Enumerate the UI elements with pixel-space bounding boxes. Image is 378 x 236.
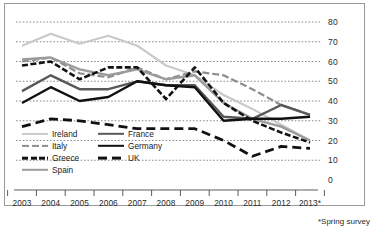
x-axis-tick-2009: 2009 — [179, 198, 211, 208]
legend-label: UK — [128, 154, 140, 163]
legend-label: Ireland — [52, 130, 77, 139]
legend-swatch-italy-icon — [22, 142, 48, 151]
y-axis-tick-40: 40 — [328, 96, 350, 106]
legend-label: Greece — [52, 154, 79, 163]
legend-label: Germany — [128, 142, 162, 151]
legend-swatch-ireland-icon — [22, 130, 48, 139]
y-axis-tick-80: 80 — [328, 17, 350, 27]
x-axis-tick-2010: 2010 — [208, 198, 240, 208]
y-axis-tick-20: 20 — [328, 136, 350, 146]
legend-column-right: FranceGermanyUK — [98, 128, 162, 164]
x-axis-tick-2004: 2004 — [35, 198, 67, 208]
legend-item-spain[interactable]: Spain — [22, 164, 79, 176]
legend-swatch-germany-icon — [98, 142, 124, 151]
legend-item-uk[interactable]: UK — [98, 152, 162, 164]
y-axis-tick-60: 60 — [328, 57, 350, 67]
chart-figure: 01020304050607080 2003200420052006200720… — [0, 0, 378, 236]
legend-item-italy[interactable]: Italy — [22, 140, 79, 152]
legend-label: Italy — [52, 142, 67, 151]
legend-swatch-france-icon — [98, 130, 124, 139]
x-axis-tick-2007: 2007 — [121, 198, 153, 208]
x-axis-tick-2008: 2008 — [150, 198, 182, 208]
legend-item-greece[interactable]: Greece — [22, 152, 79, 164]
y-axis-tick-0: 0 — [328, 175, 350, 185]
legend-label: France — [128, 130, 154, 139]
legend-swatch-greece-icon — [22, 154, 48, 163]
y-axis-tick-30: 30 — [328, 116, 350, 126]
x-axis-tick-2013-star: 2013* — [294, 198, 326, 208]
legend-label: Spain — [52, 166, 73, 175]
legend-item-germany[interactable]: Germany — [98, 140, 162, 152]
legend-item-ireland[interactable]: Ireland — [22, 128, 79, 140]
x-axis-tick-2012: 2012 — [265, 198, 297, 208]
y-axis-tick-70: 70 — [328, 37, 350, 47]
legend-column-left: IrelandItalyGreeceSpain — [22, 128, 79, 176]
legend-swatch-uk-icon — [98, 154, 124, 163]
footnote: *Spring survey — [318, 217, 370, 226]
x-axis-tick-2005: 2005 — [64, 198, 96, 208]
x-axis-tick-2011: 2011 — [236, 198, 268, 208]
y-axis-tick-50: 50 — [328, 76, 350, 86]
legend-item-france[interactable]: France — [98, 128, 162, 140]
legend-swatch-spain-icon — [22, 166, 48, 175]
y-axis-tick-10: 10 — [328, 155, 350, 165]
x-axis-tick-2003: 2003 — [6, 198, 38, 208]
x-axis-tick-2006: 2006 — [92, 198, 124, 208]
